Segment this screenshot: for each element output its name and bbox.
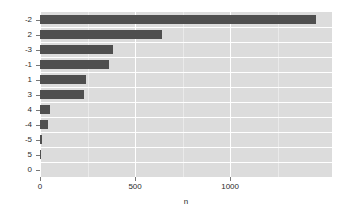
bar xyxy=(40,15,316,24)
gridline-category xyxy=(40,147,332,148)
x-tick-mark xyxy=(40,177,41,181)
y-tick-label: 2 xyxy=(28,31,32,39)
y-tick-mark xyxy=(36,140,40,141)
y-tick-mark xyxy=(36,170,40,171)
x-axis-title: n xyxy=(40,198,332,206)
x-tick-mark xyxy=(135,177,136,181)
bar xyxy=(40,135,42,144)
x-tick-label: 1000 xyxy=(221,183,239,191)
x-tick-label: 0 xyxy=(38,183,42,191)
x-tick-mark xyxy=(230,177,231,181)
gridline-minor xyxy=(278,12,279,177)
gridline-category xyxy=(40,117,332,118)
y-tick-label: -1 xyxy=(25,61,32,69)
y-tick-mark xyxy=(36,155,40,156)
y-tick-label: -4 xyxy=(25,121,32,129)
y-tick-label: 1 xyxy=(28,76,32,84)
y-tick-label: 4 xyxy=(28,106,32,114)
y-tick-mark xyxy=(36,50,40,51)
gridline-minor xyxy=(183,12,184,177)
y-axis: -22-3-1134-4-550 xyxy=(0,12,40,177)
y-tick-mark xyxy=(36,80,40,81)
bar xyxy=(40,105,50,114)
bar xyxy=(40,90,84,99)
y-tick-label: 3 xyxy=(28,91,32,99)
y-tick-mark xyxy=(36,20,40,21)
y-tick-label: -2 xyxy=(25,16,32,24)
gridline-category xyxy=(40,72,332,73)
y-tick-mark xyxy=(36,125,40,126)
y-tick-mark xyxy=(36,95,40,96)
bar xyxy=(40,120,48,129)
bar xyxy=(40,45,113,54)
gridline-category xyxy=(40,102,332,103)
x-tick-label: 500 xyxy=(128,183,141,191)
bar xyxy=(40,150,41,159)
gridline-category xyxy=(40,132,332,133)
y-tick-label: 5 xyxy=(28,151,32,159)
gridline-major xyxy=(230,12,231,177)
y-tick-mark xyxy=(36,35,40,36)
bar xyxy=(40,30,162,39)
gridline-category xyxy=(40,27,332,28)
gridline-category xyxy=(40,87,332,88)
bar-chart: -22-3-1134-4-550 05001000 n xyxy=(0,0,341,218)
bar xyxy=(40,75,86,84)
y-tick-label: -5 xyxy=(25,136,32,144)
x-axis: 05001000 xyxy=(40,177,332,197)
gridline-category xyxy=(40,42,332,43)
bar xyxy=(40,60,109,69)
gridline-category xyxy=(40,162,332,163)
y-tick-label: 0 xyxy=(28,166,32,174)
y-tick-mark xyxy=(36,65,40,66)
y-tick-mark xyxy=(36,110,40,111)
gridline-category xyxy=(40,57,332,58)
plot-panel xyxy=(40,12,332,177)
y-tick-label: -3 xyxy=(25,46,32,54)
